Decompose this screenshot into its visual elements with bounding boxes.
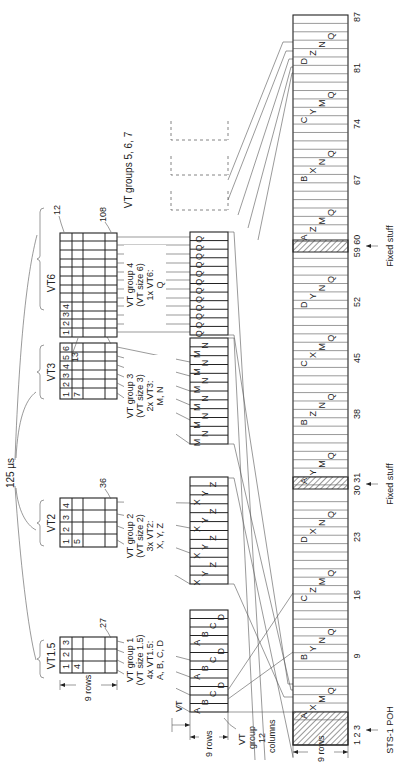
col-label-74: 74 (352, 119, 362, 129)
vt-group-4-column-letter: Q (194, 270, 204, 277)
vt-group-label-line-2: group (247, 726, 257, 749)
vt-dimension-label: VT (174, 700, 184, 712)
sts1-column-letter: Q (326, 393, 336, 400)
vt-group-1-column-letter: C (208, 622, 218, 629)
vt15-cell-4: 4 (72, 664, 82, 669)
vt-group-3-column-letter: N (200, 413, 210, 420)
vt-group-1-column-letter: C (208, 656, 218, 663)
vt-group-2-column-letter: X (192, 499, 202, 505)
vt-group-1-line-1: VT group 1 (125, 638, 135, 682)
vt-group-1-column-letter: A (192, 640, 202, 646)
vt-group-3-column-letter: M (192, 421, 202, 429)
vt-group-4-column-letter: Q (194, 287, 204, 294)
vt-group-4-column-letter: Q (194, 330, 204, 337)
vt6-cell-2: 2 (61, 321, 71, 326)
vt6-top-label: 12 (52, 205, 62, 215)
vt15-end-label: 27 (98, 618, 108, 628)
vt-group-1-column-letter: B (200, 631, 210, 637)
sts1-column-letter: C (299, 360, 309, 367)
vt-group-1-column-letter: A (192, 674, 202, 680)
sts1-column-letter: A (299, 478, 309, 484)
vt2-name: VT2 (46, 513, 57, 532)
vt3-cell-4: 4 (61, 364, 71, 369)
sts1-column-letter: Q (326, 91, 336, 98)
vt-group-2-line-3: 3x VT2: (145, 520, 155, 551)
vt-group-4-line-1: VT group 4 (125, 263, 135, 307)
col-label-87: 87 (352, 12, 362, 22)
vt-group-1-box: ABCDABCDABCD (190, 610, 228, 714)
vt-group-2-line-1: VT group 2 (125, 514, 135, 558)
vt-group-2-column-letter: Y (200, 490, 210, 496)
vt2-cell-4: 4 (61, 503, 71, 508)
vt15-box: VT1.5 1 2 3 4 27 9 rows (37, 618, 117, 701)
col-label-1-2-3: 1 2 3 (352, 725, 362, 745)
sts1-column-letter: A (299, 713, 309, 719)
vt-group-2-line-4: X, Y, Z (155, 522, 165, 549)
vt15-cell-2: 2 (61, 652, 71, 657)
sts1-poh-label: STS-1 POH (385, 706, 395, 754)
sts1-column-letter: M (317, 695, 327, 703)
col-label-45: 45 (352, 353, 362, 363)
sts1-column-letter: Y (308, 646, 318, 652)
vt-group-4-column-letter: Q (194, 313, 204, 320)
period-arrow-vt15 (15, 486, 36, 660)
vt-group-2-column-letter: Z (208, 481, 218, 487)
vt-group-3-column-letter: N (200, 342, 210, 349)
vt-group-3-line-2: (VT size 3) (135, 374, 145, 417)
vt6-box: VT6 1 2 3 4 13 12 108 (37, 205, 117, 362)
vt-group-4-line-2: (VT size 6) (135, 263, 145, 306)
vt15-cell-3: 3 (61, 640, 71, 645)
sts1-column-letter: Z (308, 411, 318, 417)
vt-group-1-column-letter: D (216, 682, 226, 689)
vt-group-4-box: QQQQQQQQQQQQ (190, 232, 228, 337)
vt-group-3-box: MNMNMNMNMNMN (190, 338, 228, 446)
vt6-end-label: 108 (98, 207, 108, 222)
vt3-cell-7: 7 (72, 392, 82, 397)
sts1-column-letter: Q (326, 33, 336, 40)
vt2-box: VT2 1 2 3 4 5 36 (37, 478, 117, 547)
vt-group-rows-label: 9 rows (204, 730, 214, 757)
col-label-38: 38 (352, 409, 362, 419)
sts1-column-letter: X (308, 167, 318, 173)
col-label-23: 23 (352, 532, 362, 542)
sonet-vt-mapping-diagram: 125 µs VT1.5 1 2 3 4 27 9 rows VT2 (0, 0, 406, 765)
period-annotation: 125 µs (5, 235, 37, 660)
vt15-brace (37, 640, 44, 678)
vt-group-4-column-letter: Q (194, 296, 204, 303)
sts1-column-letter: B (299, 654, 309, 660)
sts1-column-letter: Q (326, 150, 336, 157)
sts1-column-letter: Y (308, 469, 318, 475)
vt3-cell-1: 1 (61, 392, 71, 397)
sts1-column-letter: Q (326, 687, 336, 694)
vt-group-4-column-letter: Q (194, 236, 204, 243)
sts1-column-letter: Q (326, 209, 336, 216)
vt-group-2-column-letter: Y (200, 517, 210, 523)
vt3-name: VT3 (46, 362, 57, 381)
sts1-column-letter: Q (326, 452, 336, 459)
vt-groups-5-6-7-label: VT groups 5, 6, 7 (123, 131, 134, 208)
sts1-column-letter: M (317, 460, 327, 468)
vt-group-4-column-letter: Q (194, 279, 204, 286)
sts1-column-letter: Q (326, 276, 336, 283)
vt2-cell-3: 3 (61, 515, 71, 520)
col-label-52: 52 (352, 297, 362, 307)
col-label-16: 16 (352, 590, 362, 600)
sts1-column-letter: M (317, 100, 327, 108)
sts1-column-letter: N (317, 637, 327, 644)
vt-group-3-column-letter: M (192, 351, 202, 359)
vt2-end-label: 36 (98, 478, 108, 488)
vt-group-2-line-2: (VT size 2) (135, 514, 145, 557)
vt3-cell-3: 3 (61, 373, 71, 378)
sts1-column-letter: N (317, 402, 327, 409)
vt-group-4-column-letter: Q (194, 304, 204, 311)
period-label: 125 µs (5, 458, 16, 488)
vt15-rows-label: 9 rows (83, 674, 93, 701)
vt-group-2-column-letter: Y (200, 571, 210, 577)
sts1-rows-label: 9 rows (316, 735, 326, 762)
sts1-column-letter: X (308, 528, 318, 534)
vt-group-1-line-4: A, B, C, D (155, 639, 165, 680)
vt-group-2-column-letter: X (192, 553, 202, 559)
sts1-column-letter: B (299, 176, 309, 182)
vt-group-4-column-letter: Q (194, 244, 204, 251)
vt-group-4-column-letter: Q (194, 253, 204, 260)
